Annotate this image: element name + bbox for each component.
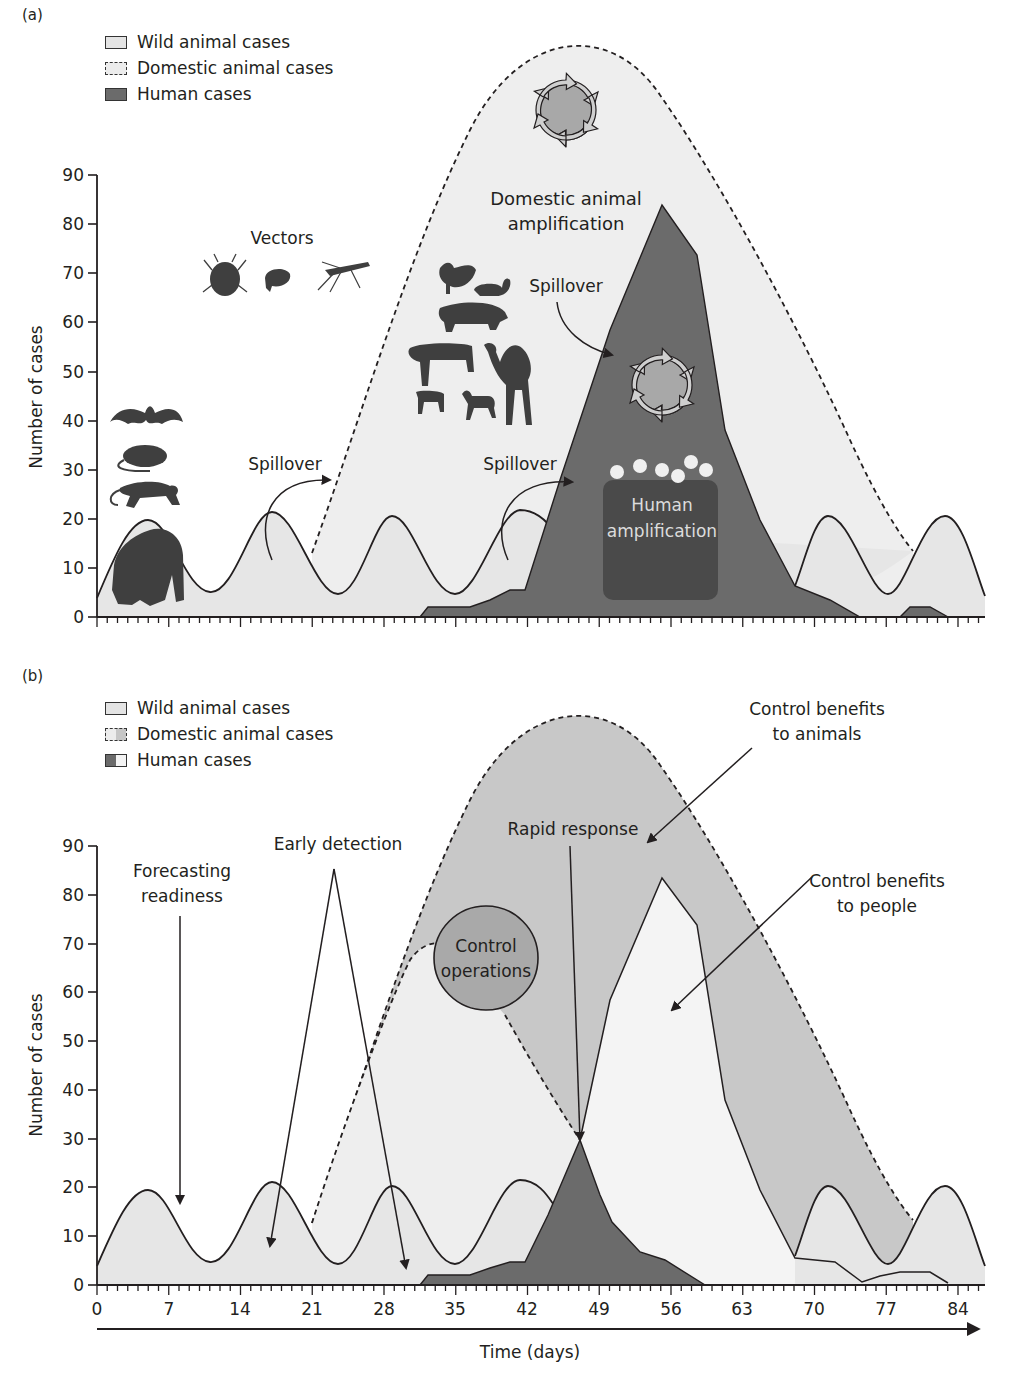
- bat-icon: [110, 406, 183, 424]
- y-axis-title-b: Number of cases: [26, 993, 46, 1137]
- svg-text:40: 40: [62, 1080, 84, 1100]
- panel-a-chart: 010 2030 4050 6070 8090 Number of cases …: [26, 46, 985, 627]
- x-axis-title: Time (days): [479, 1342, 580, 1362]
- svg-text:0: 0: [73, 1275, 84, 1295]
- forecasting-label-2: readiness: [141, 886, 223, 906]
- spillover-label-1: Spillover: [248, 454, 322, 474]
- human-amp-label-2: amplification: [607, 521, 717, 541]
- y-axis-labels-b: 010 2030 4050 6070 8090: [62, 836, 84, 1295]
- svg-text:7: 7: [164, 1299, 175, 1319]
- rapid-response-label: Rapid response: [508, 819, 639, 839]
- benefit-animals-label-2: to animals: [773, 724, 862, 744]
- control-operations-circle: [434, 906, 538, 1010]
- human-amp-label-1: Human: [631, 495, 692, 515]
- flea-icon: [265, 269, 290, 292]
- svg-text:63: 63: [731, 1299, 753, 1319]
- svg-text:80: 80: [62, 214, 84, 234]
- svg-text:49: 49: [588, 1299, 610, 1319]
- benefit-people-label-2: to people: [837, 896, 917, 916]
- svg-text:42: 42: [516, 1299, 538, 1319]
- y-axis-ticks-b: [88, 846, 97, 1285]
- svg-text:60: 60: [62, 982, 84, 1002]
- svg-text:70: 70: [62, 263, 84, 283]
- figure-canvas: 010 2030 4050 6070 8090 Number of cases …: [0, 0, 1015, 1393]
- svg-text:14: 14: [229, 1299, 251, 1319]
- svg-text:50: 50: [62, 362, 84, 382]
- control-ops-label-1: Control: [455, 936, 516, 956]
- svg-text:21: 21: [301, 1299, 323, 1319]
- svg-text:56: 56: [660, 1299, 682, 1319]
- svg-text:60: 60: [62, 312, 84, 332]
- mosquito-icon: [325, 262, 370, 276]
- monkey-icon: [119, 482, 180, 508]
- y-axis-title-a: Number of cases: [26, 325, 46, 469]
- svg-text:50: 50: [62, 1031, 84, 1051]
- spillover-label-2: Spillover: [483, 454, 557, 474]
- domestic-amp-label-1: Domestic animal: [490, 188, 642, 209]
- wild-animal-icons: [110, 406, 184, 606]
- svg-text:84: 84: [947, 1299, 969, 1319]
- x-axis-labels-b: 07 1421 2835 4249 5663 7077 84: [92, 1299, 969, 1319]
- svg-text:10: 10: [62, 1226, 84, 1246]
- svg-text:70: 70: [62, 934, 84, 954]
- svg-text:28: 28: [373, 1299, 395, 1319]
- svg-text:90: 90: [62, 836, 84, 856]
- svg-text:70: 70: [803, 1299, 825, 1319]
- vectors-label: Vectors: [250, 228, 313, 248]
- svg-text:35: 35: [444, 1299, 466, 1319]
- benefit-people-label-1: Control benefits: [809, 871, 945, 891]
- rat-icon: [123, 445, 167, 467]
- svg-text:0: 0: [92, 1299, 103, 1319]
- svg-text:20: 20: [62, 1177, 84, 1197]
- panel-b-chart: Control operations 010 2030 4050 6070 80…: [26, 699, 985, 1362]
- x-axis-ticks-b: [97, 1285, 979, 1295]
- tick-icon: [210, 262, 240, 296]
- svg-text:90: 90: [62, 165, 84, 185]
- svg-text:77: 77: [875, 1299, 897, 1319]
- svg-text:0: 0: [73, 607, 84, 627]
- y-axis-labels-a: 010 2030 4050 6070 8090: [62, 165, 84, 627]
- svg-text:30: 30: [62, 1129, 84, 1149]
- svg-text:10: 10: [62, 558, 84, 578]
- benefit-animals-label-1: Control benefits: [749, 699, 885, 719]
- x-axis-ticks-a: [97, 617, 979, 627]
- svg-text:30: 30: [62, 460, 84, 480]
- early-detection-label: Early detection: [274, 834, 403, 854]
- domestic-amp-label-2: amplification: [508, 213, 625, 234]
- y-axis-ticks-a: [88, 175, 97, 617]
- spillover-label-3: Spillover: [529, 276, 603, 296]
- svg-text:20: 20: [62, 509, 84, 529]
- svg-text:40: 40: [62, 411, 84, 431]
- forecasting-label-1: Forecasting: [133, 861, 231, 881]
- svg-text:80: 80: [62, 885, 84, 905]
- vector-icons: [203, 254, 370, 296]
- control-ops-label-2: operations: [441, 961, 532, 981]
